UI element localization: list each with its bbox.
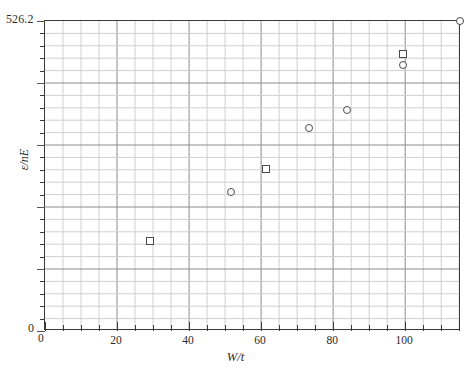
x-axis-tick (153, 325, 154, 331)
y-axis-tick (37, 269, 45, 270)
x-axis-tick (81, 325, 82, 331)
y-axis-tick (40, 281, 45, 282)
y-axis-tick (40, 319, 45, 320)
x-axis-tick (405, 322, 406, 331)
y-axis-tick (40, 58, 45, 59)
x-axis-tick (297, 325, 298, 331)
x-axis-tick-label-80: 80 (312, 334, 352, 346)
scatter-chart: 526.2 0 0 ε/nE W/t 20406080100 (0, 0, 471, 371)
y-axis-max-label: 526.2 (6, 12, 34, 27)
x-axis-tick (117, 322, 118, 331)
x-axis-tick (387, 325, 388, 331)
y-axis-tick (37, 207, 45, 208)
x-axis-tick (171, 325, 172, 331)
x-axis-tick (207, 325, 208, 331)
x-axis-tick-label-20: 20 (96, 334, 136, 346)
data-point-square-5 (399, 50, 407, 58)
y-axis-tick (40, 157, 45, 158)
x-axis-tick-label-0: 0 (38, 332, 44, 344)
data-point-square-0 (146, 237, 154, 245)
plot-area (44, 20, 460, 330)
y-axis-tick (40, 232, 45, 233)
x-axis-tick (99, 325, 100, 331)
y-axis-tick (40, 257, 45, 258)
x-axis-tick (63, 325, 64, 331)
y-axis-tick (40, 219, 45, 220)
x-axis-tick-label-60: 60 (240, 334, 280, 346)
x-axis-tick (351, 325, 352, 331)
x-axis-tick (45, 322, 46, 331)
y-axis-tick (40, 120, 45, 121)
y-axis-tick (40, 294, 45, 295)
data-point-square-2 (262, 165, 270, 173)
x-axis-tick (423, 325, 424, 331)
x-axis-tick (225, 325, 226, 331)
y-axis-tick (40, 244, 45, 245)
data-point-circle-7 (456, 17, 464, 25)
y-axis-tick (40, 133, 45, 134)
x-axis-tick (279, 325, 280, 331)
x-axis-tick (333, 322, 334, 331)
y-axis-title: ε/nE (17, 149, 32, 170)
y-axis-tick (40, 170, 45, 171)
y-axis-tick (40, 71, 45, 72)
data-point-circle-4 (343, 106, 351, 114)
y-axis-tick (37, 21, 45, 22)
y-axis-tick (40, 182, 45, 183)
data-point-circle-6 (399, 61, 407, 69)
y-axis-tick (37, 83, 45, 84)
x-axis-tick (135, 325, 136, 331)
x-axis-tick (459, 325, 460, 331)
x-axis-tick (189, 322, 190, 331)
y-axis-tick (40, 108, 45, 109)
x-axis-tick (369, 325, 370, 331)
y-axis-tick (37, 145, 45, 146)
y-axis-tick (40, 306, 45, 307)
y-axis-tick (37, 331, 45, 332)
x-axis-tick (441, 325, 442, 331)
data-point-circle-3 (305, 124, 313, 132)
x-axis-tick (315, 325, 316, 331)
x-axis-tick (261, 322, 262, 331)
y-axis-tick (40, 195, 45, 196)
x-axis-tick-label-100: 100 (384, 334, 424, 346)
y-axis-tick (40, 46, 45, 47)
data-point-circle-1 (227, 188, 235, 196)
y-axis-tick (40, 95, 45, 96)
grid-lines (45, 21, 459, 329)
y-axis-zero-label: 0 (28, 321, 34, 336)
y-axis-tick (40, 33, 45, 34)
x-axis-title: W/t (0, 350, 471, 365)
x-axis-tick (243, 325, 244, 331)
x-axis-tick-label-40: 40 (168, 334, 208, 346)
